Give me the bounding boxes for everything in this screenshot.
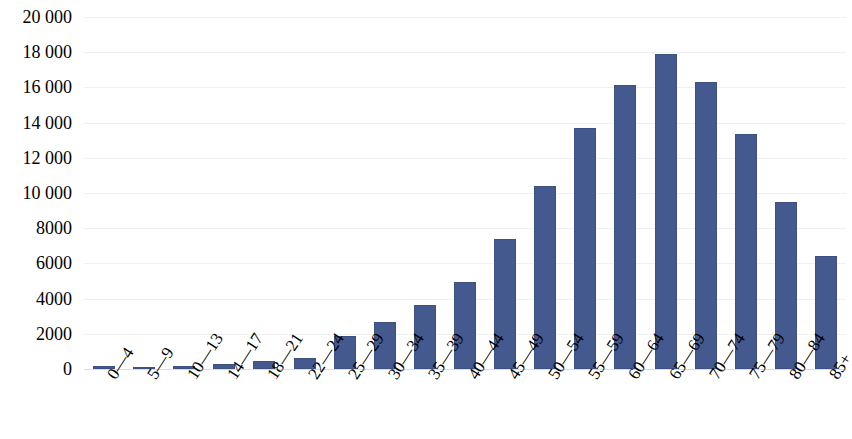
bar-slot <box>244 17 284 369</box>
bar-slot <box>726 17 766 369</box>
bar-slot <box>686 17 726 369</box>
y-axis-tick-label: 4000 <box>0 290 72 308</box>
bar-slot <box>204 17 244 369</box>
y-axis-tick-label: 20 000 <box>0 8 72 26</box>
bar-slot <box>325 17 365 369</box>
bar-slot <box>365 17 405 369</box>
plot-area <box>84 17 846 369</box>
y-axis: 20 00018 00016 00014 00012 00010 0008000… <box>0 0 78 380</box>
bar-slot <box>646 17 686 369</box>
y-axis-tick-label: 8000 <box>0 219 72 237</box>
x-axis: 0—45—910—1314—1718—2122—2425—2930—3435—3… <box>84 369 846 439</box>
bar-slot <box>84 17 124 369</box>
y-axis-tick-label: 16 000 <box>0 78 72 96</box>
bar-slot <box>525 17 565 369</box>
y-axis-tick-label: 0 <box>0 360 72 378</box>
bar-slot <box>806 17 846 369</box>
bar-slot <box>445 17 485 369</box>
y-axis-tick-label: 10 000 <box>0 184 72 202</box>
bar-slot <box>405 17 445 369</box>
bar-slot <box>164 17 204 369</box>
bar[interactable] <box>655 54 677 369</box>
bar-chart: 20 00018 00016 00014 00012 00010 0008000… <box>0 0 852 439</box>
y-axis-tick-label: 14 000 <box>0 114 72 132</box>
y-axis-tick-label: 18 000 <box>0 43 72 61</box>
bar-slot <box>605 17 645 369</box>
bar-slot <box>565 17 605 369</box>
y-axis-tick-label: 2000 <box>0 325 72 343</box>
bar[interactable] <box>614 85 636 369</box>
bars-layer <box>84 17 846 369</box>
y-axis-tick-label: 6000 <box>0 254 72 272</box>
bar[interactable] <box>695 82 717 369</box>
bar-slot <box>766 17 806 369</box>
bar-slot <box>124 17 164 369</box>
y-axis-tick-label: 12 000 <box>0 149 72 167</box>
bar-slot <box>485 17 525 369</box>
bar-slot <box>285 17 325 369</box>
